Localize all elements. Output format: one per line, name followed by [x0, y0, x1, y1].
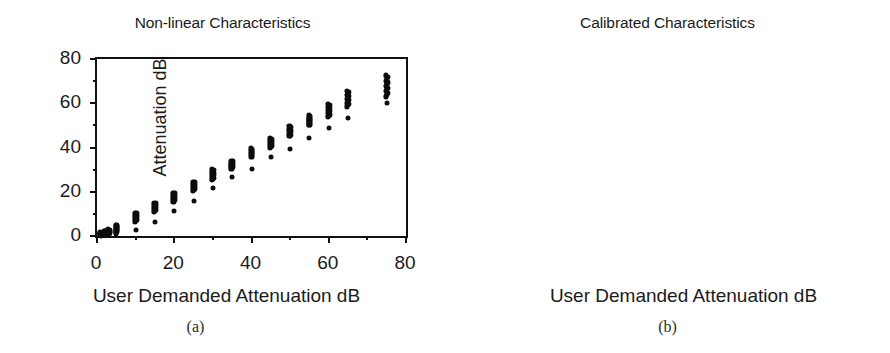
- x-axis-tick-label: 80: [394, 252, 415, 274]
- data-point: [346, 115, 351, 120]
- panel-a-x-axis-label: User Demanded Attenuation dB: [4, 285, 449, 307]
- x-axis-tick: 60: [328, 236, 330, 243]
- panel-a-title: Non-linear Characteristics: [0, 14, 445, 32]
- x-axis-tick-label: 0: [91, 252, 102, 274]
- x-axis-tick-label: 20: [163, 252, 184, 274]
- panel-b-x-axis-label: User Demanded Attenuation dB: [461, 285, 890, 307]
- data-point: [210, 186, 215, 191]
- y-axis-minor-tick: [93, 169, 97, 171]
- data-point: [230, 175, 235, 180]
- figure-container: Non-linear Characteristics 0204060800204…: [0, 0, 890, 353]
- data-point: [114, 232, 119, 237]
- y-axis-tick: 40: [90, 147, 97, 149]
- x-axis-minor-tick: [135, 236, 137, 240]
- y-axis-minor-tick: [93, 124, 97, 126]
- x-axis-minor-tick: [289, 236, 291, 240]
- data-point: [288, 146, 293, 151]
- panel-a-plot-area: 020406080020406080: [97, 59, 406, 236]
- data-point: [106, 233, 111, 238]
- panel-b-subcaption: (b): [445, 318, 890, 336]
- x-axis-tick: 40: [251, 236, 253, 243]
- y-axis-tick: 20: [90, 191, 97, 193]
- x-axis-minor-tick: [366, 236, 368, 240]
- data-point: [249, 166, 254, 171]
- y-axis-minor-tick: [93, 80, 97, 82]
- y-axis-tick-label: 60: [60, 91, 81, 113]
- panel-b: Calibrated Characteristics 0204060800204…: [445, 0, 890, 353]
- panel-a-y-axis-label: Attenuation dB: [150, 38, 171, 198]
- y-axis-tick: 80: [90, 58, 97, 60]
- x-axis-tick: 20: [173, 236, 175, 243]
- y-axis-tick-label: 80: [60, 47, 81, 69]
- panel-a: Non-linear Characteristics 0204060800204…: [0, 0, 445, 353]
- panel-b-title: Calibrated Characteristics: [445, 14, 890, 32]
- data-point: [172, 208, 177, 213]
- data-point: [384, 101, 389, 106]
- x-axis-tick-label: 60: [317, 252, 338, 274]
- data-point: [326, 125, 331, 130]
- data-point: [191, 198, 196, 203]
- y-axis-tick: 60: [90, 102, 97, 104]
- y-axis-tick-label: 20: [60, 180, 81, 202]
- data-point: [152, 219, 157, 224]
- panel-a-plot-frame: 020406080020406080 Attenuation dB: [95, 57, 408, 238]
- panel-a-subcaption: (a): [0, 318, 418, 336]
- x-axis-tick: 80: [405, 236, 407, 243]
- y-axis-tick-label: 0: [70, 224, 81, 246]
- y-axis-tick-label: 40: [60, 136, 81, 158]
- y-axis-minor-tick: [93, 213, 97, 215]
- x-axis-minor-tick: [212, 236, 214, 240]
- data-point: [307, 135, 312, 140]
- x-axis-tick-label: 40: [240, 252, 261, 274]
- data-point: [133, 228, 138, 233]
- data-point: [268, 155, 273, 160]
